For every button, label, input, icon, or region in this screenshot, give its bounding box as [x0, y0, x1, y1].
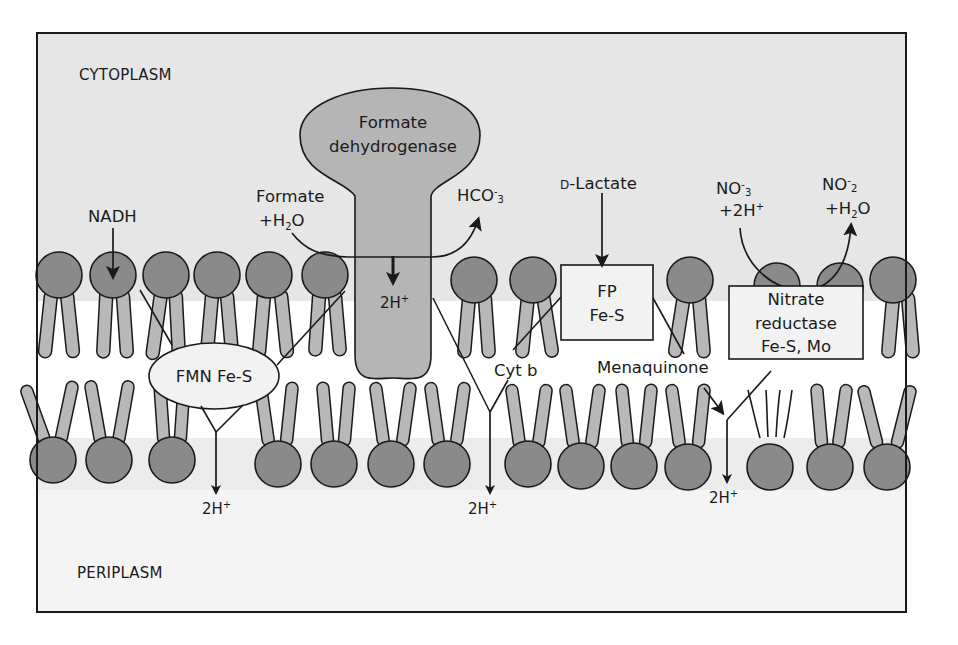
nitrate-reductase-label-2: reductase	[755, 314, 837, 333]
lipid-head	[870, 257, 916, 303]
lactate-label: D-Lactate	[560, 174, 637, 193]
lipid-head	[667, 257, 713, 303]
lipid-head	[864, 444, 910, 490]
formate-dehydrogenase-label-2: dehydrogenase	[329, 137, 457, 156]
lipid-head	[451, 257, 497, 303]
nitrate-reductase-label-1: Nitrate	[768, 290, 825, 309]
lipid-head	[510, 257, 556, 303]
nitrate-reductase-label-3: Fe-S, Mo	[761, 337, 831, 356]
cytoplasm-label: CYTOPLASM	[79, 66, 172, 84]
formate-water-label: +H2O	[259, 211, 305, 232]
fp-fes-box	[561, 265, 653, 340]
lipid-head	[302, 252, 348, 298]
fes-label: Fe-S	[589, 306, 624, 325]
lipid-head	[149, 437, 195, 483]
fmn-fes-label: FMN Fe-S	[176, 367, 252, 386]
lipid-head	[368, 441, 414, 487]
formate-dehydrogenase-label-1: Formate	[359, 113, 427, 132]
lipid-head	[747, 444, 793, 490]
cyt-b-label: Cyt b	[494, 361, 537, 380]
lipid-head	[36, 252, 82, 298]
respiratory-chain-diagram: Formate dehydrogenase 2H+ Nitrate reduct…	[0, 0, 958, 645]
lipid-head	[311, 441, 357, 487]
menaquinone-label: Menaquinone	[597, 358, 709, 377]
nitrite-water-label: +H2O	[825, 199, 871, 220]
lipid-head	[424, 441, 470, 487]
lipid-head	[255, 441, 301, 487]
lactate-dehydrogenase: FP Fe-S	[561, 265, 653, 340]
formate-label: Formate	[256, 187, 324, 206]
lipid-head	[558, 443, 604, 489]
fp-label: FP	[597, 282, 616, 301]
lipid-head	[665, 444, 711, 490]
bicarbonate-label: HCO-3	[457, 186, 504, 205]
lipid-head	[505, 441, 551, 487]
lipid-head	[807, 444, 853, 490]
lipid-head	[143, 252, 189, 298]
lipid-head	[86, 437, 132, 483]
lipid-head	[194, 252, 240, 298]
lipid-head	[611, 443, 657, 489]
lipid-head	[246, 252, 292, 298]
nadh-label: NADH	[88, 207, 137, 226]
periplasm-label: PERIPLASM	[77, 564, 163, 582]
